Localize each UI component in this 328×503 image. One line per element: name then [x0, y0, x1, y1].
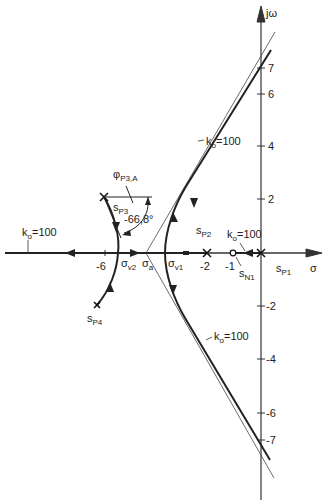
arrow-down-icon [169, 285, 177, 295]
branch-lower-right [165, 253, 270, 460]
x-axis-label: σ [310, 262, 317, 274]
y-tick-label: 4 [268, 140, 274, 152]
pole-label-p4: sP4 [87, 312, 103, 327]
y-axis-label: jω [265, 7, 277, 19]
arrow-down-icon [190, 198, 198, 208]
y-tick-label: 7 [268, 62, 274, 74]
y-tick-label: -6 [266, 407, 276, 419]
sigma-v2-label: σv2 [121, 257, 137, 272]
angle-symbol-label: φP3,A [113, 168, 138, 183]
y-tick-label: -2 [266, 300, 276, 312]
sigma-v1-label: σv1 [168, 257, 184, 272]
zero-n1-icon [230, 250, 236, 256]
y-tick-label: 6 [268, 88, 274, 100]
x-tick-label: -6 [96, 260, 106, 272]
zero-label-n1: sN1 [239, 267, 255, 282]
pole-label-p2: sP2 [196, 224, 212, 239]
arrow-left-icon [65, 249, 75, 257]
y-tick-label: -7 [266, 434, 276, 446]
pole-p4-icon [94, 302, 100, 308]
x-tick-label: -1 [225, 260, 235, 272]
gain-label-upper: ko=100 [206, 135, 241, 150]
direction-arrows [65, 198, 253, 295]
sigma-a-label: σa [142, 257, 154, 272]
y-tick-label: -4 [266, 353, 276, 365]
root-locus-diagram: jω σ 7 6 4 2 -2 -4 -6 -7 -6 -2 -1 [0, 0, 328, 503]
x-tick-label: -2 [200, 260, 210, 272]
branch-upper-right [165, 50, 271, 253]
gain-label-lower: ko=100 [214, 330, 249, 345]
gain-label-left: ko=100 [22, 226, 57, 241]
pole-label-p1: sP1 [276, 262, 292, 277]
gain-label-near-zero: ko=100 [227, 228, 262, 243]
angle-value-label: -66,8° [124, 213, 153, 225]
arrow-right-icon [130, 249, 140, 257]
y-tick-label: 2 [268, 193, 274, 205]
real-axis-arrow-icon [306, 249, 322, 257]
imag-axis-arrow-icon [257, 6, 265, 22]
arrow-up-icon [106, 282, 114, 292]
